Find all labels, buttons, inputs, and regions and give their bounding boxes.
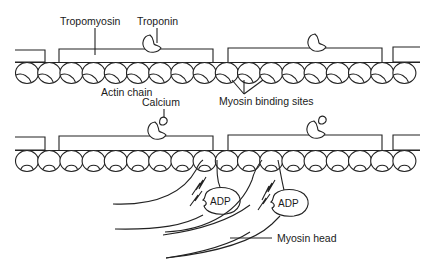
actin-bead (393, 63, 416, 84)
actin-bead (349, 151, 372, 172)
calcium-icon (160, 117, 168, 125)
troponin-icon-2 (308, 34, 326, 51)
actin-bead (16, 63, 39, 84)
actin-bead (82, 151, 105, 172)
actin-bead (238, 63, 261, 84)
actin-bead (82, 63, 105, 84)
actin-bead (60, 63, 83, 84)
actin-bead (171, 63, 194, 84)
actin-bead (326, 63, 349, 84)
actin-bead (371, 151, 394, 172)
troponin-calcium-icon-2 (307, 116, 326, 138)
myosin-head-label: Myosin head (277, 232, 337, 244)
actin-bead (215, 151, 238, 172)
myosin-head-1: ADP (113, 160, 250, 258)
troponin-label: Troponin (137, 15, 178, 27)
energy-bolt-icon (192, 177, 206, 195)
actin-bead (149, 63, 172, 84)
calcium-label: Calcium (142, 96, 180, 108)
actin-bead (193, 63, 216, 84)
top-panel: Tropomyosin Troponin Actin chain Myosin … (15, 15, 420, 107)
actin-bead (16, 151, 39, 172)
actin-bead (127, 151, 150, 172)
actin-bead (349, 63, 372, 84)
actin-bead (393, 151, 416, 172)
actin-chain-bottom (16, 151, 416, 172)
muscle-contraction-diagram: Tropomyosin Troponin Actin chain Myosin … (0, 0, 434, 272)
actin-bead (127, 63, 150, 84)
actin-bead (38, 151, 61, 172)
actin-chain-top (16, 63, 416, 84)
actin-bead (304, 63, 327, 84)
actin-bead (104, 151, 127, 172)
adp-label-1: ADP (210, 196, 231, 207)
actin-bead (149, 151, 172, 172)
tropomyosin-strands-bottom (15, 135, 420, 151)
actin-bead (215, 63, 238, 84)
actin-bead (371, 63, 394, 84)
bottom-panel: Calcium ADP ADP Myosin head (15, 96, 420, 258)
tropomyosin-label: Tropomyosin (60, 15, 120, 27)
tropomyosin-strands (15, 47, 420, 63)
actin-bead (104, 63, 127, 84)
actin-bead (38, 63, 61, 84)
actin-bead (326, 151, 349, 172)
troponin-icon (143, 35, 161, 52)
troponin-calcium-icon (148, 117, 167, 139)
actin-bead (304, 151, 327, 172)
calcium-icon-2 (319, 116, 327, 124)
actin-bead (282, 63, 305, 84)
myosin-binding-sites-label: Myosin binding sites (219, 95, 314, 107)
actin-bead (171, 151, 194, 172)
actin-bead (60, 151, 83, 172)
actin-bead (282, 151, 305, 172)
adp-label-2: ADP (278, 198, 299, 209)
